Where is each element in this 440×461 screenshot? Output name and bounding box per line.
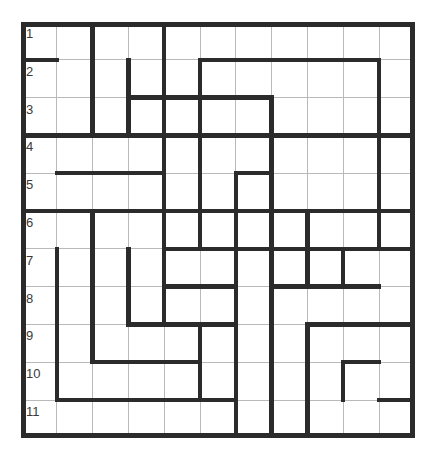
puzzle-container: 1234567891011 [0,0,440,461]
grid-background [21,22,415,438]
grid-canvas[interactable] [21,22,415,438]
puzzle-grid[interactable]: 1234567891011 [21,22,415,438]
